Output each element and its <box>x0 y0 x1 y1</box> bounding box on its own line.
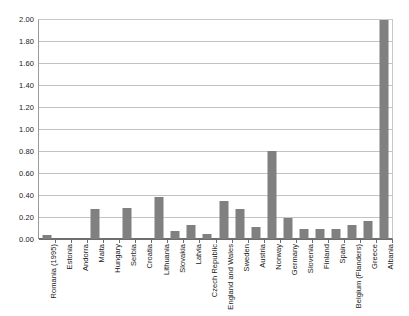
bar-slot <box>183 19 199 239</box>
x-axis-tick <box>135 239 136 243</box>
x-axis-tick-label: Austria <box>259 244 267 268</box>
x-axis-tick-label: Romania (1995) <box>50 244 58 298</box>
x-axis-tick-label: Greece <box>371 244 379 269</box>
bar <box>219 201 228 240</box>
x-axis-tick-label: Estonia <box>66 244 74 269</box>
x-axis-tick-label: Albania <box>387 244 395 269</box>
x-axis-tick <box>296 239 297 243</box>
x-axis-tick <box>87 239 88 243</box>
y-axis-tick-label: 1.00 <box>19 125 34 134</box>
y-axis-labels: 2.001.801.601.401.201.000.800.600.400.20… <box>0 19 34 239</box>
x-axis-ticks <box>39 239 392 243</box>
x-axis-tick-label: Belgium (Flanders) <box>355 244 363 308</box>
x-axis-tick-label: Slovakia <box>179 244 187 273</box>
bar-slot <box>151 19 167 239</box>
bar-slot <box>312 19 328 239</box>
bar <box>235 209 244 239</box>
bar <box>91 209 100 239</box>
x-axis-tick-label: Serbia <box>130 244 138 266</box>
bar <box>363 221 372 239</box>
bar-slot <box>296 19 312 239</box>
x-axis-tick <box>151 239 152 243</box>
x-axis-tick <box>392 239 393 243</box>
x-axis-tick-label: Hungary <box>114 244 122 273</box>
bar <box>331 229 340 239</box>
x-axis-tick-label: England and Wales <box>227 244 235 310</box>
x-axis-tick <box>183 239 184 243</box>
bar <box>171 231 180 239</box>
x-axis-tick <box>264 239 265 243</box>
bar-slot <box>344 19 360 239</box>
x-axis-tick <box>344 239 345 243</box>
bar <box>155 197 164 239</box>
bar <box>267 151 276 239</box>
bar-slot <box>216 19 232 239</box>
bar-slot <box>360 19 376 239</box>
bar-slot <box>280 19 296 239</box>
x-axis-tick <box>71 239 72 243</box>
bar-slot <box>264 19 280 239</box>
x-axis-tick-label: Andorra <box>82 244 90 271</box>
bar-slot <box>135 19 151 239</box>
x-axis-tick-label: Finland <box>323 244 331 269</box>
x-axis-tick <box>199 239 200 243</box>
x-axis-tick-label: Germany <box>291 244 299 275</box>
x-axis-tick-label: Latvia <box>195 244 203 264</box>
x-axis-tick <box>103 239 104 243</box>
x-axis-tick-label: Lithuania <box>163 244 171 275</box>
bar <box>123 208 132 239</box>
y-axis-tick-label: 0.00 <box>19 235 34 244</box>
y-axis-tick-label: 0.80 <box>19 147 34 156</box>
y-axis-tick-label: 2.00 <box>19 15 34 24</box>
x-axis-tick <box>55 239 56 243</box>
bar-slot <box>199 19 215 239</box>
y-axis-tick-label: 1.40 <box>19 81 34 90</box>
bar-slot <box>328 19 344 239</box>
x-axis-tick <box>328 239 329 243</box>
x-axis-tick <box>376 239 377 243</box>
x-axis-tick <box>216 239 217 243</box>
bar-slot <box>248 19 264 239</box>
x-axis-tick-label: Norway <box>275 244 283 270</box>
x-axis-tick-label: Czech Republic <box>211 244 219 297</box>
bar-slot <box>167 19 183 239</box>
x-axis-tick <box>119 239 120 243</box>
y-axis-tick-label: 0.40 <box>19 191 34 200</box>
bar-slot <box>103 19 119 239</box>
y-axis-tick-label: 1.60 <box>19 59 34 68</box>
bar <box>187 225 196 239</box>
bar-chart: 2.001.801.601.401.201.000.800.600.400.20… <box>0 0 409 316</box>
bar-slot <box>119 19 135 239</box>
bar-slot <box>232 19 248 239</box>
y-axis-tick-label: 0.60 <box>19 169 34 178</box>
bar <box>299 229 308 239</box>
x-axis-tick <box>360 239 361 243</box>
x-axis-tick-label: Spain <box>339 244 347 263</box>
bar-slot <box>39 19 55 239</box>
x-axis-tick <box>312 239 313 243</box>
x-axis-tick <box>280 239 281 243</box>
x-axis-tick-label: Croatia <box>146 244 154 269</box>
y-axis-tick-label: 1.80 <box>19 37 34 46</box>
bar <box>315 229 324 239</box>
bar-slot <box>376 19 392 239</box>
bar <box>379 20 388 239</box>
bar <box>347 225 356 239</box>
bar <box>251 227 260 239</box>
x-axis-tick <box>248 239 249 243</box>
y-axis-tick-label: 0.20 <box>19 213 34 222</box>
x-axis-tick-label: Sweden <box>243 244 251 271</box>
x-axis-tick <box>167 239 168 243</box>
bar <box>283 218 292 239</box>
x-axis-tick-label: Malta <box>98 244 106 263</box>
x-axis-labels: Romania (1995)EstoniaAndorraMaltaHungary… <box>39 244 392 316</box>
x-axis-tick <box>232 239 233 243</box>
bar-slot <box>55 19 71 239</box>
bar-slot <box>71 19 87 239</box>
x-axis-tick-label: Slovenia <box>307 244 315 273</box>
bar-slot <box>87 19 103 239</box>
bar-series <box>39 19 392 239</box>
y-axis-tick-label: 1.20 <box>19 103 34 112</box>
